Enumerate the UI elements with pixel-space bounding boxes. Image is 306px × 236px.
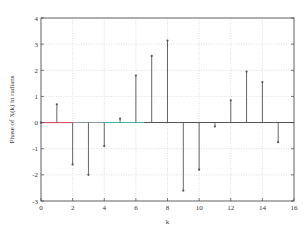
stem-marker (72, 163, 74, 165)
y-tick-label: -1 (32, 145, 38, 153)
y-tick-label: 0 (35, 119, 39, 127)
y-tick-label: -2 (32, 171, 38, 179)
y-tick-label: 1 (35, 93, 39, 101)
stem-marker (230, 99, 232, 101)
stem-marker (198, 169, 200, 171)
stem-series (40, 39, 279, 191)
x-tick-label: 2 (71, 204, 75, 212)
x-tick-label: 16 (291, 204, 299, 212)
x-tick-label: 8 (166, 204, 170, 212)
x-tick-label: 10 (196, 204, 204, 212)
stem-marker (277, 141, 279, 143)
y-tick-label: 3 (35, 41, 39, 49)
y-axis-ticks: -3-2-101234 (32, 15, 294, 206)
stem-marker (245, 70, 247, 72)
x-tick-label: 6 (134, 204, 138, 212)
stem-marker (182, 189, 184, 191)
stem-marker (166, 39, 168, 41)
stem-marker (119, 118, 121, 120)
stem-marker (135, 74, 137, 76)
x-tick-label: 12 (227, 204, 235, 212)
y-tick-label: 4 (35, 15, 39, 23)
y-axis-label: Phase of X(k) in radians (8, 75, 16, 143)
stem-marker (261, 81, 263, 83)
stem-marker (151, 55, 153, 57)
x-axis-ticks: 0246810121416 (39, 198, 298, 212)
x-axis-label: k (166, 218, 170, 226)
x-tick-label: 14 (259, 204, 267, 212)
x-tick-label: 4 (103, 204, 107, 212)
stem-marker (214, 125, 216, 127)
stem-chart: 0246810121416 -3-2-101234 k Phase of X(k… (0, 0, 306, 236)
y-tick-label: 2 (35, 67, 39, 75)
stem-marker (87, 174, 89, 176)
stem-marker (103, 145, 105, 147)
x-tick-label: 0 (39, 204, 43, 212)
y-tick-label: -3 (32, 198, 38, 206)
stem-marker (56, 103, 58, 105)
